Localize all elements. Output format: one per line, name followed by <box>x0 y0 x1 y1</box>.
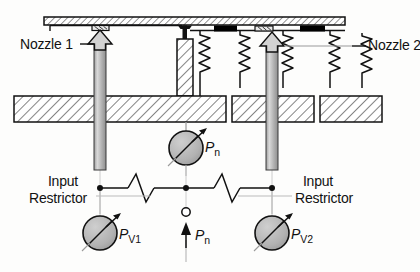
spring-group <box>199 31 372 96</box>
diagram-canvas: Nozzle 1 Nozzle 2 Pn <box>0 0 420 272</box>
node-right <box>269 185 275 191</box>
gauge-pv1 <box>82 191 121 251</box>
gauge-pv2-label: PV2 <box>291 226 313 245</box>
nozzle-2-label: Nozzle 2 <box>368 37 420 53</box>
spring-1 <box>199 31 210 96</box>
gauge-pv1-label: PV1 <box>119 226 141 245</box>
nozzle-pad-2 <box>255 26 273 31</box>
input-restrictor-left-line1: Input <box>48 173 78 189</box>
spring-2 <box>239 31 250 88</box>
node-center <box>183 185 189 191</box>
spring-3 <box>282 31 293 88</box>
spring-4 <box>329 31 340 88</box>
base-block-left <box>14 96 226 122</box>
nozzle-1-label: Nozzle 1 <box>20 36 73 52</box>
center-column <box>177 39 193 96</box>
gauge-pv2 <box>254 191 293 251</box>
supply-port-circle <box>182 208 190 216</box>
resistor-right <box>214 174 240 202</box>
gauge-nozzle-pressure <box>168 122 207 176</box>
base-block-right <box>320 96 382 122</box>
schematic-svg: Nozzle 1 Nozzle 2 Pn <box>0 0 420 272</box>
supply-port <box>181 208 191 262</box>
top-plate <box>44 17 345 25</box>
center-stud <box>178 26 192 40</box>
input-restrictor-right-line1: Input <box>303 173 333 189</box>
base-blocks <box>14 96 382 122</box>
gauge-nozzle-pressure-label: Pn <box>205 139 220 158</box>
resistor-left <box>128 174 154 202</box>
input-restrictor-right-line2: Restrictor <box>295 190 353 206</box>
node-left <box>97 185 103 191</box>
supply-port-label: Pn <box>195 227 210 246</box>
supply-arrowhead <box>181 222 191 235</box>
input-restrictor-left-line2: Restrictor <box>29 190 87 206</box>
